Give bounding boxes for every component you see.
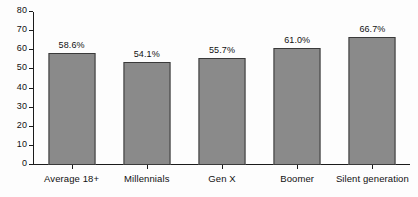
x-tick-label: Boomer xyxy=(280,173,314,184)
x-tick-mark xyxy=(222,165,223,169)
x-tick-mark xyxy=(372,165,373,169)
y-tick-mark xyxy=(29,164,33,165)
bar xyxy=(349,37,396,165)
y-tick-mark xyxy=(29,49,33,50)
bar-group: 66.7% xyxy=(335,12,410,165)
bar-value-label: 58.6% xyxy=(59,40,85,50)
x-tick-label: Average 18+ xyxy=(44,173,99,184)
bars-layer: 58.6%54.1%55.7%61.0%66.7% xyxy=(34,12,410,165)
y-tick-label: 20 xyxy=(17,120,27,130)
bar xyxy=(123,62,170,165)
y-tick-mark xyxy=(29,88,33,89)
bar-group: 58.6% xyxy=(34,12,109,165)
bar-value-label: 55.7% xyxy=(209,45,235,55)
bar-chart: 01020304050607080 58.6%54.1%55.7%61.0%66… xyxy=(0,0,418,197)
y-tick-label: 30 xyxy=(17,101,27,111)
y-tick-label: 40 xyxy=(17,82,27,92)
y-tick-label: 0 xyxy=(22,158,27,168)
x-tick-label: Silent generation xyxy=(336,173,409,184)
y-tick-mark xyxy=(29,30,33,31)
bar-value-label: 66.7% xyxy=(359,24,385,34)
y-tick-label: 10 xyxy=(17,139,27,149)
y-tick-label: 60 xyxy=(17,43,27,53)
y-tick-label: 80 xyxy=(17,5,27,15)
y-tick-mark xyxy=(29,126,33,127)
bar-group: 54.1% xyxy=(109,12,184,165)
bar-value-label: 61.0% xyxy=(284,35,310,45)
y-tick-mark xyxy=(29,11,33,12)
y-tick-mark xyxy=(29,68,33,69)
x-tick-label: Millennials xyxy=(124,173,169,184)
bar-value-label: 54.1% xyxy=(134,49,160,59)
bar xyxy=(48,53,95,165)
y-tick-label: 50 xyxy=(17,62,27,72)
bar xyxy=(198,58,245,165)
bar-group: 61.0% xyxy=(260,12,335,165)
bar xyxy=(274,48,321,165)
x-tick-mark xyxy=(147,165,148,169)
y-tick-mark xyxy=(29,145,33,146)
y-tick-label: 70 xyxy=(17,24,27,34)
y-tick-mark xyxy=(29,107,33,108)
x-tick-mark xyxy=(72,165,73,169)
x-tick-mark xyxy=(297,165,298,169)
bar-group: 55.7% xyxy=(184,12,259,165)
x-tick-label: Gen X xyxy=(208,173,235,184)
